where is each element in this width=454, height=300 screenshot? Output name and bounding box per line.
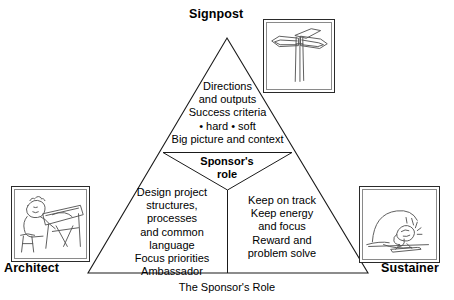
corner-label-signpost: Signpost: [189, 8, 243, 21]
signpost-illustration-inner: [266, 22, 332, 90]
sustainer-section-text: Keep on trackKeep energyand focusReward …: [230, 194, 334, 260]
signpost-illustration-frame: [263, 19, 335, 93]
architect-section-text: Design projectstructures,processesand co…: [118, 186, 226, 278]
corner-label-sustainer: Sustainer: [381, 262, 439, 275]
architect-illustration-frame: [11, 186, 90, 262]
sustainer-illustration-frame: [359, 186, 440, 263]
diagram-canvas: Signpost Architect Sustainer Directionsa…: [0, 0, 454, 300]
architect-illustration-inner: [14, 189, 87, 259]
corner-label-architect: Architect: [4, 262, 59, 275]
person-pushing-load-uphill-icon: [363, 190, 436, 259]
architect-at-drafting-table-icon: [15, 190, 86, 258]
sponsors-role-label: Sponsor'srole: [167, 155, 287, 182]
sustainer-illustration-inner: [362, 189, 437, 260]
diagram-caption: The Sponsor's Role: [0, 281, 454, 294]
signpost-drawing-icon: [267, 23, 331, 89]
